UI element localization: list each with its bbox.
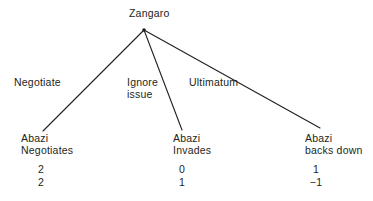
branch-label-ignore-issue-line1: Ignore (127, 77, 158, 89)
leaf-label-backs-down-line2: backs down (305, 145, 363, 157)
leaf-label-negotiates-line2: Negotiates (21, 145, 73, 157)
payoff-abazi-negotiates: 2 (30, 176, 52, 189)
branch-label-negotiate: Negotiate (14, 77, 61, 89)
game-tree-diagram: Zangaro Negotiate Ignore issue Ultimatum… (0, 0, 373, 201)
payoff-abazi-invades: 1 (171, 176, 193, 189)
payoff-zangaro-backs-down: 1 (305, 163, 327, 176)
root-player-label: Zangaro (129, 8, 170, 20)
payoff-stack-invades: 0 1 (171, 163, 193, 188)
leaf-label-negotiates-line1: Abazi (21, 133, 48, 145)
payoff-abazi-backs-down: −1 (305, 176, 327, 189)
payoff-zangaro-negotiates: 2 (30, 163, 52, 176)
payoff-stack-backs-down: 1 −1 (305, 163, 327, 188)
leaf-label-invades-line1: Abazi (173, 133, 200, 145)
payoff-stack-negotiates: 2 2 (30, 163, 52, 188)
leaf-label-backs-down-line1: Abazi (305, 133, 332, 145)
root-decision-node (142, 28, 146, 32)
branch-label-ignore-issue-line2: issue (127, 89, 153, 101)
branch-label-ultimatum: Ultimatum (189, 77, 238, 89)
leaf-label-invades-line2: Invades (173, 145, 211, 157)
payoff-zangaro-invades: 0 (171, 163, 193, 176)
